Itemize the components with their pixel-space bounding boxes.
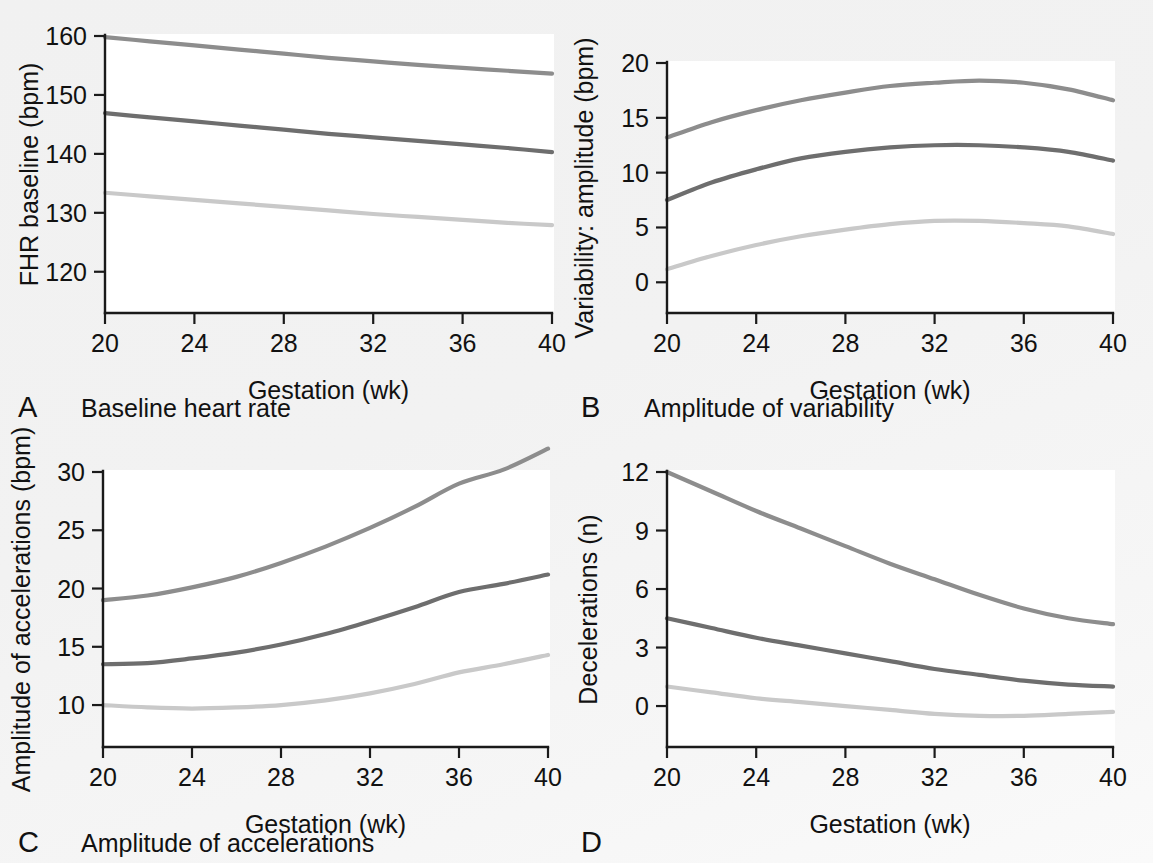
plot-top-margin [563, 0, 1153, 61]
y-tick-label: 3 [635, 634, 649, 662]
chart-d: 036912202428323640Gestation (wk)Decelera… [563, 434, 1153, 863]
panel-letter-b: B [581, 393, 600, 422]
x-axis-title: Gestation (wk) [809, 810, 970, 838]
panel-caption-c: Amplitude of accelerations [81, 831, 374, 856]
x-tick-label: 40 [1099, 763, 1127, 791]
panel-b: 05101520202428323640Gestation (wk)Variab… [563, 0, 1153, 432]
x-tick-label: 32 [921, 763, 949, 791]
x-tick-label: 32 [359, 329, 387, 357]
x-tick-label: 20 [91, 329, 119, 357]
panel-c: 1015202530202428323640Gestation (wk)Ampl… [0, 434, 576, 863]
x-tick-label: 40 [534, 763, 562, 791]
y-tick-label: 10 [621, 159, 649, 187]
y-tick-label: 20 [621, 49, 649, 77]
x-tick-label: 20 [653, 763, 681, 791]
chart-c: 1015202530202428323640Gestation (wk)Ampl… [0, 434, 576, 863]
chart-b: 05101520202428323640Gestation (wk)Variab… [563, 0, 1153, 432]
y-tick-label: 120 [45, 258, 87, 286]
y-tick-label: 10 [57, 691, 85, 719]
y-axis-title: FHR baseline (bpm) [15, 63, 43, 287]
chart-a: 120130140150160202428323640Gestation (wk… [0, 0, 576, 432]
x-tick-label: 24 [180, 329, 208, 357]
y-axis-title: Amplitude of accelerations (bpm) [7, 427, 35, 792]
y-tick-label: 150 [45, 81, 87, 109]
x-tick-label: 40 [538, 329, 566, 357]
plot-top-margin [563, 434, 1153, 470]
y-tick-label: 130 [45, 199, 87, 227]
panel-caption-b: Amplitude of variability [644, 396, 894, 421]
x-tick-label: 20 [89, 763, 117, 791]
y-axis-title: Variability: amplitude (bpm) [570, 37, 598, 338]
y-tick-label: 5 [635, 213, 649, 241]
panel-caption-a: Baseline heart rate [81, 396, 291, 421]
panel-d: 036912202428323640Gestation (wk)Decelera… [563, 434, 1153, 863]
x-tick-label: 24 [742, 763, 770, 791]
x-tick-label: 28 [831, 763, 859, 791]
x-tick-label: 36 [445, 763, 473, 791]
y-tick-label: 160 [45, 22, 87, 50]
panel-letter-d: D [581, 828, 602, 857]
y-tick-label: 6 [635, 575, 649, 603]
panel-letter-a: A [18, 393, 37, 422]
y-tick-label: 0 [635, 692, 649, 720]
x-tick-label: 24 [178, 763, 206, 791]
y-tick-label: 9 [635, 517, 649, 545]
y-tick-label: 12 [621, 458, 649, 486]
figure-canvas: 120130140150160202428323640Gestation (wk… [0, 0, 1153, 863]
y-tick-label: 140 [45, 140, 87, 168]
y-tick-label: 30 [57, 458, 85, 486]
y-tick-label: 15 [57, 633, 85, 661]
plot-background [667, 61, 1115, 313]
x-tick-label: 20 [653, 329, 681, 357]
x-tick-label: 36 [449, 329, 477, 357]
plot-background [105, 34, 554, 313]
x-tick-label: 40 [1099, 329, 1127, 357]
y-tick-label: 15 [621, 104, 649, 132]
x-tick-label: 32 [921, 329, 949, 357]
y-tick-label: 25 [57, 516, 85, 544]
x-tick-label: 28 [267, 763, 295, 791]
plot-background [103, 470, 550, 747]
x-tick-label: 28 [270, 329, 298, 357]
x-tick-label: 36 [1010, 763, 1038, 791]
x-tick-label: 32 [356, 763, 384, 791]
panel-a: 120130140150160202428323640Gestation (wk… [0, 0, 576, 432]
x-tick-label: 36 [1010, 329, 1038, 357]
plot-top-margin [0, 434, 576, 470]
y-axis-title: Decelerations (n) [574, 514, 602, 704]
panel-letter-c: C [18, 828, 39, 857]
y-tick-label: 0 [635, 268, 649, 296]
x-tick-label: 24 [742, 329, 770, 357]
x-tick-label: 28 [831, 329, 859, 357]
plot-background [667, 470, 1115, 747]
y-tick-label: 20 [57, 575, 85, 603]
